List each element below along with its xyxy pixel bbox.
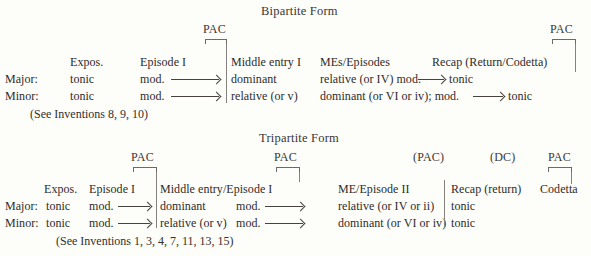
tripartite-row-major-arrow-1 <box>118 206 150 207</box>
bipartite-pac-marker-1-bracket <box>205 39 227 44</box>
bipartite-row-minor-mes-a: dominant (or VI or iv); mod. <box>320 89 459 104</box>
tripartite-row-major-arrow-2 <box>265 206 303 207</box>
tripartite-pac-marker-2-bracket <box>276 167 300 172</box>
tripartite-row-major-expos: tonic <box>46 199 70 214</box>
tripartite-header-recap: Recap (return) <box>451 182 521 197</box>
tripartite-row-major-middle-mod: mod. <box>236 199 261 214</box>
tripartite-form-title: Tripartite Form <box>259 131 339 146</box>
tripartite-row-minor-arrow-1 <box>118 223 150 224</box>
bipartite-form-title: Bipartite Form <box>261 4 338 19</box>
bipartite-row-minor-episode: mod. <box>140 89 165 104</box>
bipartite-pac-marker-2-label: PAC <box>550 22 573 37</box>
bipartite-row-minor-expos: tonic <box>70 89 94 104</box>
bipartite-pac-marker-1-label: PAC <box>203 22 226 37</box>
tripartite-row-minor-middle-entry: relative (or v) <box>160 216 227 231</box>
tripartite-row-major-middle-entry: dominant <box>160 199 206 214</box>
bipartite-section-divider-2 <box>575 44 576 72</box>
bipartite-header-expos: Expos. <box>70 55 103 70</box>
tripartite-row-minor-middle-mod: mod. <box>236 216 261 231</box>
bipartite-header-middle-entry-1: Middle entry I <box>231 55 301 70</box>
bipartite-header-episode-1: Episode I <box>140 55 186 70</box>
bipartite-row-minor-mode: Minor: <box>5 89 39 104</box>
tripartite-pac-marker-1-label: PAC <box>131 150 154 165</box>
bipartite-row-minor-mes-b: tonic <box>508 89 532 104</box>
bipartite-row-major-arrow-2 <box>418 79 444 80</box>
tripartite-footnote: (See Inventions 1, 3, 4, 7, 11, 13, 15) <box>56 234 234 249</box>
bipartite-row-minor-arrow-1 <box>171 96 219 97</box>
bipartite-row-major-mes-a: relative (or IV) mod. <box>320 72 421 87</box>
bipartite-header-recap: Recap (Return/Codetta) <box>432 55 547 70</box>
tripartite-pac-marker-2-label: PAC <box>274 150 297 165</box>
tripartite-pac-marker-3-label: (PAC) <box>413 150 444 165</box>
bipartite-row-minor-middle-entry: relative (or v) <box>231 89 298 104</box>
bipartite-pac-marker-2-bracket <box>552 39 576 44</box>
bipartite-footnote: (See Inventions 8, 9, 10) <box>30 107 148 122</box>
tripartite-header-expos: Expos. <box>44 182 77 197</box>
bipartite-header-mes-episodes: MEs/Episodes <box>320 55 390 70</box>
tripartite-pac-marker-1-bracket <box>133 167 157 172</box>
tripartite-row-major-episode: mod. <box>89 199 114 214</box>
bipartite-row-major-mode: Major: <box>5 72 38 87</box>
tripartite-recap-divider <box>444 180 445 228</box>
tripartite-header-codetta: Codetta <box>540 182 578 197</box>
tripartite-pac-marker-5-label: PAC <box>548 150 571 165</box>
bipartite-row-major-mes-b: tonic <box>449 72 473 87</box>
bipartite-row-major-middle-entry: dominant <box>231 72 277 87</box>
tripartite-row-major-me-episode-2: relative (or IV or ii) <box>338 199 434 214</box>
tripartite-row-minor-me-episode-2: dominant (or VI or iv) <box>338 216 446 231</box>
bipartite-row-major-expos: tonic <box>70 72 94 87</box>
tripartite-row-minor-recap: tonic <box>451 216 475 231</box>
bipartite-row-minor-arrow-2 <box>473 96 503 97</box>
figure-canvas: Bipartite Form PAC PAC Expos. Episode I … <box>0 0 591 256</box>
tripartite-dc-marker-label: (DC) <box>490 150 515 165</box>
tripartite-header-middle-entry-episode-1: Middle entry/Episode I <box>160 182 272 197</box>
tripartite-row-major-mode: Major: <box>5 199 38 214</box>
tripartite-row-major-recap: tonic <box>451 199 475 214</box>
tripartite-row-minor-mode: Minor: <box>5 216 39 231</box>
bipartite-row-major-episode: mod. <box>140 72 165 87</box>
tripartite-row-minor-arrow-2 <box>265 223 303 224</box>
tripartite-row-minor-expos: tonic <box>46 216 70 231</box>
bipartite-section-divider-1 <box>226 44 227 103</box>
tripartite-row-minor-episode: mod. <box>89 216 114 231</box>
tripartite-section-divider-1 <box>156 172 157 228</box>
tripartite-pac-marker-5-bracket <box>548 167 572 172</box>
tripartite-section-divider-2 <box>299 172 300 182</box>
tripartite-header-me-episode-2: ME/Episode II <box>338 182 410 197</box>
tripartite-header-episode-1: Episode I <box>89 182 135 197</box>
bipartite-row-major-arrow-1 <box>171 79 219 80</box>
